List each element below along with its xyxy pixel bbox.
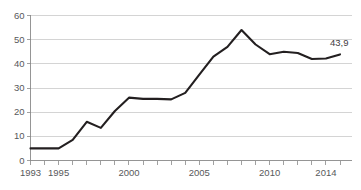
y-tick-label: 0: [3, 155, 25, 166]
y-tick-label: 30: [3, 82, 25, 93]
line-chart: 0102030405060 199319952000200520102014 4…: [0, 0, 361, 190]
x-tick-label: 1995: [39, 167, 79, 178]
y-tick-label: 20: [3, 106, 25, 117]
x-tick-label: 2005: [179, 167, 219, 178]
x-tick-label: 2000: [109, 167, 149, 178]
data-series-line: [31, 30, 341, 148]
x-tick-label: 2010: [250, 167, 290, 178]
y-tick-label: 10: [3, 130, 25, 141]
y-tick-label: 50: [3, 34, 25, 45]
y-tick-label: 40: [3, 58, 25, 69]
y-tick-label: 60: [3, 10, 25, 21]
y-tick-marks: [27, 16, 31, 161]
gridlines: [31, 16, 353, 137]
data-point-label: 43,9: [330, 37, 349, 48]
x-tick-marks: [31, 161, 341, 165]
x-tick-label: 2014: [306, 167, 346, 178]
chart-plot-area: [0, 0, 361, 190]
